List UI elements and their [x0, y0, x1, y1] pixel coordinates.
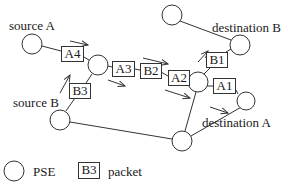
arrow-icon [210, 107, 228, 113]
packet-a4: A4 [61, 46, 84, 62]
packet-a3: A3 [112, 61, 135, 77]
packet-a1: A1 [213, 78, 236, 94]
packet-a2: A2 [168, 70, 190, 86]
arrow-icon [70, 41, 88, 45]
legend-packet-label: packet [108, 165, 142, 178]
pse-node-bottom [172, 131, 192, 151]
pse-node-source-b [50, 110, 70, 130]
legend-pse-icon [4, 161, 24, 181]
label-destination-a: destination A [202, 116, 271, 129]
label-source-a: source A [9, 19, 55, 32]
link-A1-destA [236, 90, 238, 94]
link-A4-hub1 [84, 57, 89, 60]
packet-b3: B3 [69, 83, 91, 99]
link-hub2-bottom [185, 92, 196, 131]
link-hub2-B1 [204, 68, 210, 74]
pse-node-source-a [22, 34, 42, 54]
label-destination-b: destination B [212, 21, 281, 34]
arrow-icon [165, 90, 190, 98]
legend-packet-icon: B3 [78, 162, 100, 179]
packet-b2: B2 [140, 63, 162, 79]
pse-node-destination-a [237, 92, 255, 110]
label-source-b: source B [13, 96, 59, 109]
packet-b1: B1 [206, 52, 228, 68]
arrow-icon [108, 80, 125, 86]
link-sourceA-A4 [42, 46, 61, 51]
pse-node-hub-1 [88, 55, 108, 75]
legend-pse-label: PSE [33, 165, 55, 178]
link-B3-sourceB [66, 98, 75, 111]
link-B2-A2 [161, 72, 168, 76]
pse-node-hub-2 [188, 72, 208, 92]
link-sourceB-bottom [70, 122, 172, 139]
pse-node-destination-b [230, 35, 250, 55]
link-hub1-B3 [86, 74, 92, 83]
pse-node-top [162, 5, 182, 25]
